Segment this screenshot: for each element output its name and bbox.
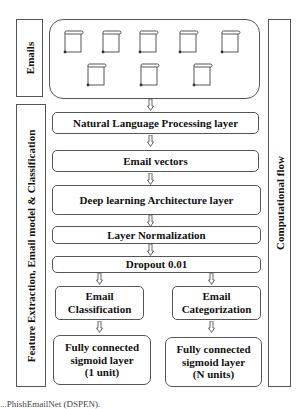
categorization-line1: Email (202, 290, 230, 303)
email-categorization-box: Email Categorization (172, 286, 261, 320)
classification-line1: Email (85, 290, 113, 303)
deep-learning-box: Deep learning Architecture layer (52, 185, 261, 215)
dropout-label: Dropout 0.01 (126, 258, 188, 271)
arrow-down-icon (147, 135, 154, 147)
email-scroll-icon (137, 30, 159, 55)
fc-left-line3: (1 unit) (85, 366, 120, 379)
arrow-down-icon (147, 173, 154, 185)
fc-left-line1: Fully connected (65, 341, 139, 354)
fc-sigmoid-1unit-box: Fully connected sigmoid layer (1 unit) (53, 335, 151, 385)
email-scroll-icon (100, 30, 122, 55)
deep-learning-label: Deep learning Architecture layer (80, 194, 234, 207)
arrow-down-icon (96, 321, 103, 333)
arrow-down-icon (208, 273, 215, 285)
categorization-line2: Categorization (182, 303, 252, 316)
email-vectors-label: Email vectors (123, 155, 187, 168)
email-scroll-icon (62, 30, 84, 55)
flow-side-label: Computational flow (268, 19, 291, 387)
nlp-layer-box: Natural Language Processing layer (52, 112, 259, 134)
email-classification-box: Email Classification (55, 286, 144, 320)
flow-label-text: Computational flow (274, 156, 286, 250)
email-vectors-box: Email vectors (52, 150, 259, 172)
emails-side-label: Emails (16, 19, 43, 97)
email-scroll-icon (177, 30, 199, 55)
classification-line2: Classification (68, 303, 132, 316)
email-scroll-icon (138, 63, 160, 88)
arrow-down-icon (96, 273, 103, 285)
feature-label-text: Feature Extraction, Email model & Classi… (25, 129, 37, 362)
fc-left-line2: sigmoid layer (70, 354, 133, 367)
layer-normalization-box: Layer Normalization (52, 226, 261, 244)
arrow-down-icon (208, 321, 215, 333)
dropout-box: Dropout 0.01 (52, 256, 261, 273)
email-scroll-icon (219, 30, 241, 55)
arrow-down-icon (147, 244, 154, 256)
nlp-layer-label: Natural Language Processing layer (73, 117, 238, 130)
email-scroll-icon (191, 63, 213, 88)
figure-caption: ...PhishEmailNet (DSPEN). (0, 399, 100, 409)
fc-right-line3: (N units) (193, 368, 234, 381)
fc-right-line2: sigmoid layer (182, 356, 245, 369)
arrow-down-icon (147, 99, 154, 111)
fc-sigmoid-nunits-box: Fully connected sigmoid layer (N units) (165, 337, 262, 387)
emails-label-text: Emails (24, 42, 36, 74)
layer-normalization-label: Layer Normalization (107, 229, 205, 242)
fc-right-line1: Fully connected (176, 343, 250, 356)
email-scroll-icon (85, 63, 107, 88)
feature-side-label: Feature Extraction, Email model & Classi… (16, 104, 46, 387)
